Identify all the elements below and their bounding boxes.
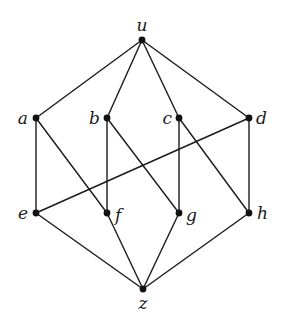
labels-group: uabcdefghz (18, 15, 268, 313)
edge-d-e (36, 118, 249, 213)
node-a (33, 115, 40, 122)
node-label-h: h (257, 203, 268, 223)
edge-e-z (36, 213, 143, 289)
node-b (104, 115, 111, 122)
node-label-c: c (162, 108, 172, 128)
edge-g-z (143, 213, 179, 289)
node-u (139, 37, 146, 44)
node-label-e: e (18, 203, 28, 223)
node-label-a: a (18, 108, 28, 128)
node-g (176, 210, 183, 217)
hasse-diagram: uabcdefghz (0, 0, 283, 326)
edge-a-f (36, 118, 107, 213)
node-label-d: d (256, 108, 267, 128)
node-h (246, 210, 253, 217)
node-c (176, 115, 183, 122)
node-z (140, 286, 147, 293)
node-d (246, 115, 253, 122)
edge-u-d (142, 40, 249, 118)
node-label-f: f (113, 205, 124, 225)
edges-group (36, 40, 249, 289)
node-label-u: u (137, 15, 148, 35)
node-label-z: z (138, 293, 149, 313)
edge-u-b (107, 40, 142, 118)
edge-c-h (179, 118, 249, 213)
edge-f-z (107, 213, 143, 289)
edge-u-c (142, 40, 179, 118)
edge-u-a (36, 40, 142, 118)
node-f (104, 210, 111, 217)
node-label-g: g (186, 205, 197, 225)
node-label-b: b (89, 108, 100, 128)
node-e (33, 210, 40, 217)
